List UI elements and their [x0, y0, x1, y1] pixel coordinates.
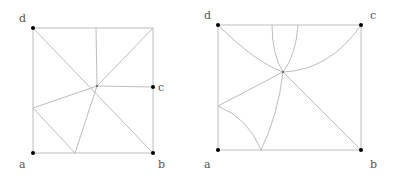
- left-edge-center-top: [96, 28, 97, 86]
- right-arc-d-center: [218, 25, 283, 72]
- right-arc-top-left: [272, 25, 283, 72]
- label-c: c: [370, 9, 376, 22]
- label-b: b: [370, 158, 377, 171]
- left-edge-center-bottom: [75, 86, 97, 153]
- label-c: c: [158, 81, 164, 94]
- right-figure: d c a b: [204, 9, 377, 171]
- left-edge-center-topright: [97, 28, 153, 86]
- right-edge-center-b: [283, 72, 361, 150]
- left-figure: d c a b: [19, 12, 165, 171]
- vertex-c: [151, 85, 155, 89]
- label-a: a: [19, 158, 26, 171]
- vertex-c: [359, 23, 363, 27]
- left-edge-center-left: [33, 86, 97, 108]
- label-a: a: [204, 158, 211, 171]
- right-arc-center-bottom: [261, 72, 283, 150]
- vertex-b: [359, 148, 363, 152]
- left-edge-left-bottom: [33, 108, 75, 153]
- vertex-center: [96, 85, 98, 87]
- diagram-canvas: d c a b d c a b: [0, 0, 394, 178]
- right-arc-top-right: [283, 25, 298, 72]
- label-d: d: [204, 9, 211, 22]
- right-arc-left-bottom: [218, 106, 261, 150]
- right-edge-center-left: [218, 72, 283, 106]
- right-square-outline: [218, 25, 361, 150]
- label-d: d: [19, 12, 26, 25]
- vertex-d: [31, 26, 35, 30]
- left-edge-center-c: [97, 86, 153, 87]
- vertex-a: [31, 151, 35, 155]
- label-b: b: [158, 158, 165, 171]
- vertex-center: [282, 71, 284, 73]
- vertex-d: [216, 23, 220, 27]
- vertex-b: [151, 151, 155, 155]
- vertex-a: [216, 148, 220, 152]
